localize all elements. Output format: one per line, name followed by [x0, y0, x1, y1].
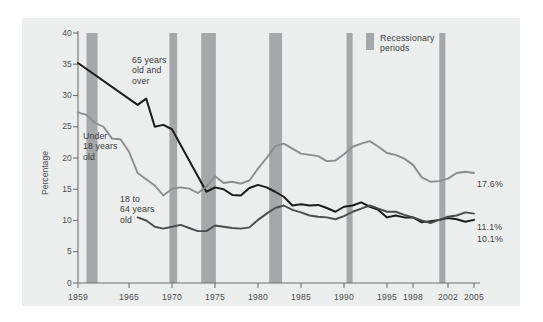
- end-label-under-18: 17.6%: [477, 179, 503, 189]
- x-axis-tick-label: 1970: [152, 292, 192, 302]
- recession-band: [201, 33, 216, 283]
- x-axis-tick-label: 1985: [281, 292, 321, 302]
- recession-band: [269, 33, 282, 283]
- x-axis-tick-label: 1965: [109, 292, 149, 302]
- x-axis-tick-label: 1959: [58, 292, 98, 302]
- series-label-under-18: Under 18 years old: [83, 131, 118, 162]
- x-axis-tick-label: 1975: [195, 292, 235, 302]
- y-axis-tick-label: 25: [44, 121, 72, 131]
- recession-band: [169, 33, 177, 283]
- chart-svg: [0, 0, 543, 322]
- end-label-65-and-over: 10.1%: [477, 234, 503, 244]
- recession-band: [439, 33, 445, 283]
- chart-plot-area: 0510152025303540 19591965197019751980198…: [0, 0, 543, 322]
- chart-figure: 0510152025303540 19591965197019751980198…: [0, 0, 543, 322]
- x-axis-tick-label: 1980: [238, 292, 278, 302]
- end-label-18-to-64: 11.1%: [477, 222, 502, 232]
- series-label-18-to-64: 18 to 64 years old: [120, 194, 155, 225]
- x-axis-tick-label: 1998: [393, 292, 433, 302]
- series-line-2: [138, 206, 474, 232]
- legend-swatch-recessionary: [366, 33, 374, 50]
- y-axis-tick-label: 40: [44, 28, 72, 38]
- recession-band: [347, 33, 353, 283]
- y-axis-title: Percentage: [40, 151, 50, 195]
- y-axis-tick-label: 5: [44, 246, 72, 256]
- y-axis-tick-label: 30: [44, 90, 72, 100]
- y-axis-tick-label: 10: [44, 215, 72, 225]
- series-label-65-and-over: 65 years old and over: [132, 55, 167, 86]
- y-axis-tick-label: 0: [44, 278, 72, 288]
- y-axis-tick-label: 35: [44, 59, 72, 69]
- x-axis-tick-label: 1990: [324, 292, 364, 302]
- legend-label-recessionary: Recessionary periods: [380, 33, 434, 54]
- x-axis-tick-label: 2005: [454, 292, 494, 302]
